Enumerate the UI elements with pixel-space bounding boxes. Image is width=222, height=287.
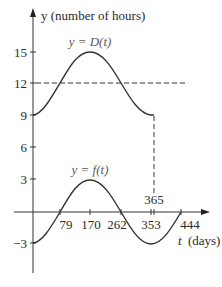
x-label-365: 365 [144, 192, 164, 207]
y-tick-label-9: 9 [21, 108, 28, 123]
x-axis-unit: (days) [188, 233, 221, 248]
y-axis-arrow-icon [30, 8, 36, 17]
x-tick-label-262: 262 [107, 217, 127, 232]
x-tick-label-444: 444 [180, 217, 200, 232]
chart-canvas: 15 12 9 6 3 −3 79 170 262 353 444 365 y … [0, 0, 222, 287]
x-axis-var: t [178, 233, 182, 248]
y-tick-label-neg3: −3 [13, 236, 27, 251]
curve-D-label: y = D(t) [67, 34, 112, 49]
y-tick-label-3: 3 [21, 172, 28, 187]
x-tick-label-353: 353 [141, 217, 161, 232]
x-axis-title: t (days) [178, 233, 220, 248]
y-axis-title: y (number of hours) [41, 8, 145, 23]
y-tick-label-12: 12 [14, 76, 27, 91]
x-axis-arrow-icon [201, 209, 210, 215]
x-tick-label-170: 170 [81, 217, 101, 232]
y-tick-label-15: 15 [14, 45, 27, 60]
curve-f-label: y = f(t) [70, 162, 109, 177]
y-tick-label-6: 6 [21, 140, 28, 155]
x-tick-label-79: 79 [60, 217, 73, 232]
